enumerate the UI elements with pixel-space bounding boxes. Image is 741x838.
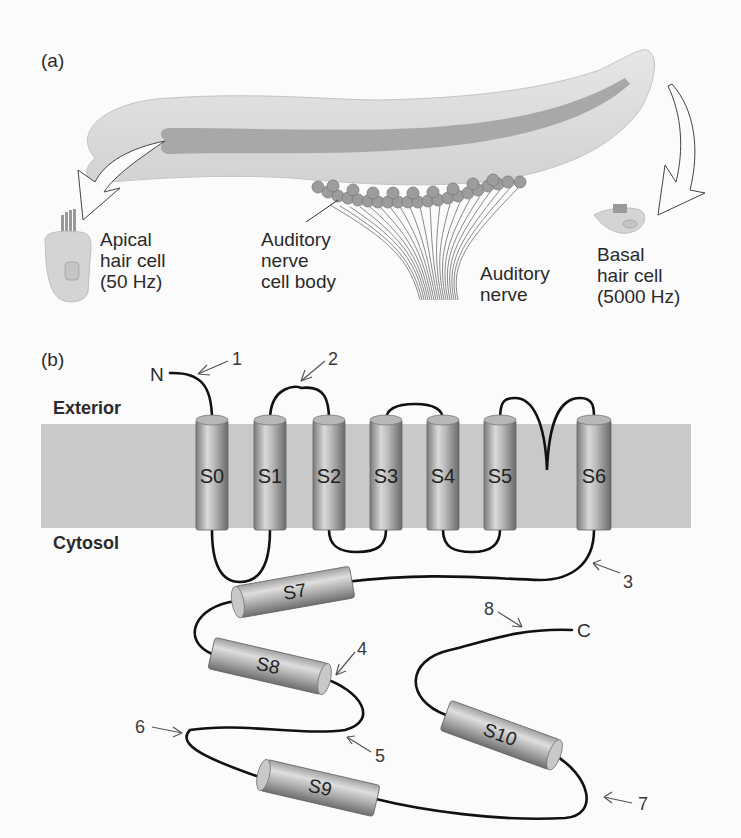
- marker-2: 2: [328, 349, 338, 370]
- apical-line-3: (50 Hz): [100, 271, 162, 292]
- apical-hair-cell-icon: [45, 209, 91, 302]
- exterior-label: Exterior: [53, 398, 121, 419]
- basal-line-2: hair cell: [597, 265, 662, 286]
- helix-s6-label: S6: [572, 465, 616, 488]
- marker-4: 4: [357, 639, 367, 660]
- panel-a-label: (a): [41, 50, 64, 71]
- cell-body-pointer: [306, 200, 338, 222]
- helix-s2-label: S2: [307, 465, 351, 488]
- cytosolic-helices: [208, 566, 566, 816]
- helix-s1-label: S1: [248, 465, 292, 488]
- panel-b-label: (b): [41, 349, 64, 370]
- cell-body-line-2: nerve: [261, 250, 309, 271]
- cochlea: [87, 50, 655, 185]
- marker-7: 7: [638, 794, 648, 815]
- diagram-canvas: (a) Apical hair cell (50 Hz) Auditory ne…: [0, 0, 741, 838]
- c-terminus-label: C: [577, 620, 591, 641]
- apical-line-2: hair cell: [100, 250, 165, 271]
- basal-arrow-icon: [658, 84, 705, 215]
- marker-1: 1: [232, 349, 242, 370]
- helix-s5-label: S5: [478, 465, 522, 488]
- basal-line-3: (5000 Hz): [597, 286, 680, 307]
- cell-body-line-3: cell body: [261, 271, 336, 292]
- helix-s3-label: S3: [364, 465, 408, 488]
- apical-line-1: Apical: [100, 229, 152, 250]
- nerve-line-1: Auditory: [480, 263, 550, 284]
- marker-3: 3: [623, 572, 633, 593]
- basal-line-1: Basal: [597, 244, 645, 265]
- marker-6: 6: [135, 717, 145, 738]
- marker-5: 5: [375, 746, 385, 767]
- basal-hair-cell-icon: [594, 204, 645, 233]
- cell-body-line-1: Auditory: [261, 229, 331, 250]
- n-terminus-label: N: [150, 364, 164, 385]
- helix-s4-label: S4: [421, 465, 465, 488]
- helix-s0-label: S0: [190, 465, 234, 488]
- cytosol-label: Cytosol: [53, 533, 119, 554]
- diagram-graphics: [0, 0, 741, 838]
- marker-8: 8: [484, 599, 494, 620]
- nerve-line-2: nerve: [480, 284, 528, 305]
